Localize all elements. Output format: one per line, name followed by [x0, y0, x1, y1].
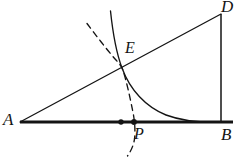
- segment-hypotenuse-AD: [20, 14, 221, 122]
- vertex-label-A: A: [3, 111, 13, 128]
- point-label-E: E: [125, 40, 135, 56]
- dot-unlabeled: [118, 119, 123, 124]
- geometry-figure: A B D E P: [0, 0, 238, 158]
- point-label-P: P: [134, 126, 144, 142]
- curve-solid-decay: [111, 11, 215, 122]
- vertex-label-B: B: [221, 126, 231, 143]
- vertex-label-D: D: [221, 0, 233, 15]
- figure-canvas: [0, 0, 238, 158]
